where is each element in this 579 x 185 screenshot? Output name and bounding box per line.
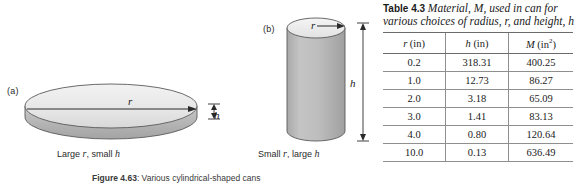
figure-label-b: (b) [263, 24, 275, 34]
table-cell-m: 65.09 [508, 89, 573, 107]
figure-caption-text: : Various cylindrical-shaped cans [137, 173, 261, 183]
table-cell-r: 2.0 [383, 89, 446, 107]
table-row: 1.012.7386.27 [383, 71, 573, 89]
table-cell-h: 0.13 [446, 143, 509, 161]
table-cell-r: 1.0 [383, 71, 446, 89]
table-cell-h: 1.41 [446, 107, 509, 125]
disk-top-face [25, 84, 197, 128]
table-cell-h: 318.31 [446, 53, 509, 71]
table-title: Table 4.3 Material, M, used in can for v… [383, 0, 579, 28]
table-description-line-1: Material, M, used in [428, 2, 522, 14]
cylinder-height-arrow-bottom [360, 134, 366, 141]
header-unit-h: (in) [471, 38, 489, 49]
table-cell-h: 0.80 [446, 125, 509, 143]
caption-panel-b: Small r, large h [258, 148, 319, 159]
caption-a-prefix: Large [57, 149, 83, 159]
table-cell-r: 10.0 [383, 143, 446, 161]
figure-label-a: (a) [7, 86, 19, 96]
table-cell-m: 120.64 [508, 125, 573, 143]
material-table: r (in) h (in) M (in2) 0.2318.31400.251.0… [383, 32, 573, 162]
tall-cylinder-illustration [283, 14, 393, 159]
cylinder-height-label: h [350, 77, 356, 89]
column-header-height: h (in) [446, 33, 509, 54]
caption-b-prefix: Small [258, 149, 283, 159]
table-cell-h: 3.18 [446, 89, 509, 107]
table-tag: Table 4.3 [383, 3, 425, 14]
caption-b-mid: , large [287, 149, 315, 159]
table-cell-m: 83.13 [508, 107, 573, 125]
cylinder-height-arrow-top [360, 23, 366, 30]
table-header-row: r (in) h (in) M (in2) [383, 33, 573, 54]
cylinder-body [287, 28, 345, 141]
table-cell-m: 86.27 [508, 71, 573, 89]
cylinder-radius-label: r [311, 19, 315, 31]
table-description-line-3: radius, r, and height, h [469, 15, 573, 27]
table-header: r (in) h (in) M (in2) [383, 33, 573, 54]
disk-height-label: h [214, 109, 220, 121]
header-unit-r: (in) [407, 38, 425, 49]
header-unit-m-exponent: 2 [549, 37, 553, 45]
header-unit-m: (in [535, 39, 549, 50]
table-row: 10.00.13636.49 [383, 143, 573, 161]
caption-b-var-h: h [314, 148, 319, 159]
table-cell-m: 636.49 [508, 143, 573, 161]
table-cell-m: 400.25 [508, 53, 573, 71]
disk-radius-label: r [128, 95, 132, 107]
table-cell-r: 4.0 [383, 125, 446, 143]
table-row: 3.01.4183.13 [383, 107, 573, 125]
table-cell-r: 3.0 [383, 107, 446, 125]
table-body: 0.2318.31400.251.012.7386.272.03.1865.09… [383, 53, 573, 161]
table-row: 2.03.1865.09 [383, 89, 573, 107]
caption-a-var-h: h [115, 148, 120, 159]
table-cell-r: 0.2 [383, 53, 446, 71]
table-panel: Table 4.3 Material, M, used in can for v… [383, 0, 579, 185]
column-header-radius: r (in) [383, 33, 446, 54]
figure-number-text: Figure 4.63 [92, 173, 137, 183]
column-header-material: M (in2) [508, 33, 573, 54]
figure-panel: (a) r h Large r, small h [0, 0, 366, 185]
flat-disk-illustration [22, 80, 222, 160]
cylinder-top-face [287, 18, 345, 38]
caption-a-mid: , small [86, 149, 115, 159]
header-var-m: M [526, 39, 535, 50]
table-cell-h: 12.73 [446, 71, 509, 89]
figure-number-caption: Figure 4.63: Various cylindrical-shaped … [92, 173, 261, 183]
caption-panel-a: Large r, small h [57, 148, 120, 159]
table-row: 4.00.80120.64 [383, 125, 573, 143]
table-row: 0.2318.31400.25 [383, 53, 573, 71]
